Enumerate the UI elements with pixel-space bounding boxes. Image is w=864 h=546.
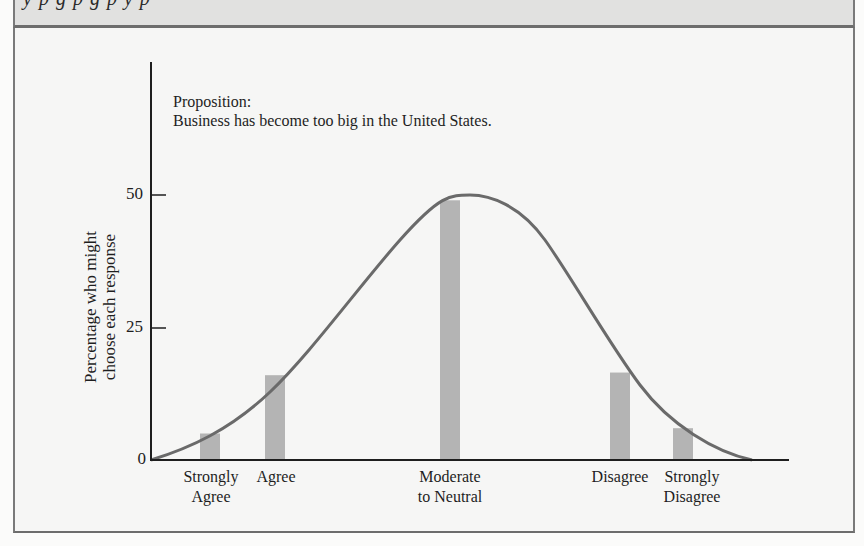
x-label-agree: Agree bbox=[256, 467, 295, 487]
bar-disagree bbox=[610, 373, 630, 460]
bar-moderate-to-neutral bbox=[440, 200, 460, 460]
y-axis-label-line-2: choose each response bbox=[100, 231, 119, 383]
proposition-text: Business has become too big in the Unite… bbox=[173, 111, 492, 130]
x-label-moderate-to-neutral: Moderateto Neutral bbox=[418, 467, 482, 507]
y-axis-label-line-1: Percentage who might bbox=[81, 231, 100, 383]
proposition-label: Proposition: bbox=[173, 92, 492, 111]
y-tick-label-50: 50 bbox=[103, 184, 143, 204]
x-label-disagree: Disagree bbox=[592, 467, 649, 487]
x-label-strongly-disagree: StronglyDisagree bbox=[664, 467, 721, 507]
x-label-strongly-agree: StronglyAgree bbox=[183, 467, 238, 507]
y-tick-label-25: 25 bbox=[103, 317, 143, 337]
chart-title: Proposition: Business has become too big… bbox=[173, 92, 492, 130]
y-tick-label-0: 0 bbox=[106, 449, 146, 469]
bars bbox=[200, 200, 693, 460]
